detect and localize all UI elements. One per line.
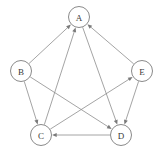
graph-edge-b-a: [29, 26, 69, 63]
graph-node-d[interactable]: D: [111, 125, 132, 146]
directed-graph-figure: ABECD: [0, 0, 158, 153]
graph-edge-a-d: [83, 27, 117, 122]
node-label-c: C: [38, 131, 44, 141]
arrowhead-d-c: [52, 133, 57, 137]
nodes-layer: ABECD: [11, 7, 153, 146]
arrowhead-b-c: [34, 119, 38, 124]
graph-edge-c-e: [50, 78, 130, 129]
arrowhead-c-a: [72, 28, 76, 33]
graph-node-a[interactable]: A: [69, 7, 90, 28]
arrowhead-e-d: [124, 119, 128, 124]
arrowhead-a-d: [114, 120, 118, 125]
graph-edge-c-a: [44, 30, 74, 125]
graph-node-e[interactable]: E: [132, 61, 153, 82]
graph-node-b[interactable]: B: [11, 61, 32, 82]
node-label-d: D: [118, 131, 125, 141]
graph-node-c[interactable]: C: [31, 125, 52, 146]
node-label-b: B: [18, 67, 24, 77]
graph-edge-e-a: [89, 26, 133, 64]
graph-canvas: ABECD: [0, 0, 158, 153]
graph-edge-e-d: [125, 81, 138, 122]
arrowhead-b-d: [107, 125, 112, 129]
node-label-e: E: [139, 67, 145, 77]
arrowhead-c-e: [128, 77, 133, 81]
edges-layer: [24, 24, 138, 137]
graph-edge-b-d: [30, 77, 109, 128]
graph-edge-b-c: [24, 81, 37, 122]
node-label-a: A: [76, 13, 83, 23]
